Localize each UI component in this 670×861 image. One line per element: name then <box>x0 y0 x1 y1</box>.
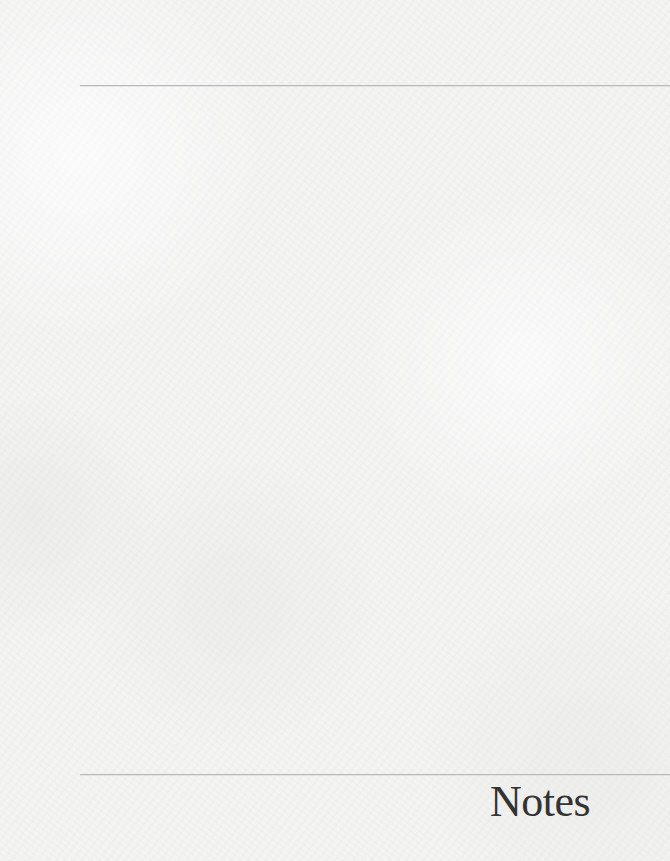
notes-page: Notes <box>0 0 670 861</box>
top-divider-line <box>80 85 670 86</box>
bottom-divider-line <box>80 774 670 775</box>
page-title: Notes <box>490 776 590 828</box>
